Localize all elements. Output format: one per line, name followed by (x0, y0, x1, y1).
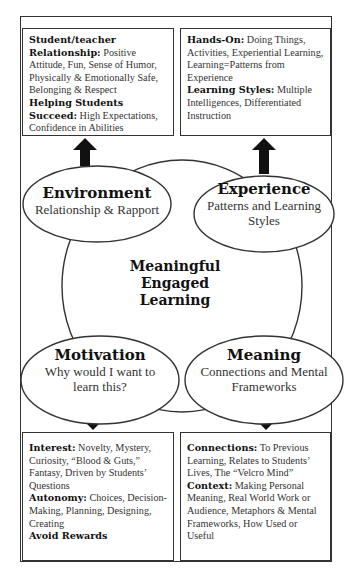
ellipse-subtitle: Relationship & Rapport (24, 202, 170, 217)
environment-label: Environment Relationship & Rapport (24, 184, 170, 217)
motivation-label: Motivation Why would I want to learn thi… (36, 346, 164, 394)
ellipse-subtitle: Patterns and Learning Styles (198, 198, 330, 228)
experience-label: Experience Patterns and Learning Styles (198, 180, 330, 228)
meaning-label: Meaning Connections and Mental Framework… (196, 346, 332, 394)
ellipse-title: Environment (24, 184, 170, 202)
center-title-line: Meaningful (100, 258, 250, 275)
center-title-line: Engaged (100, 275, 250, 292)
arrow-up-icon (252, 138, 276, 174)
arrow-up-icon (73, 138, 97, 166)
ellipse-subtitle: Why would I want to learn this? (36, 364, 164, 394)
ellipse-title: Meaning (196, 346, 332, 364)
ellipse-subtitle: Connections and Mental Frameworks (196, 364, 332, 394)
ellipse-title: Experience (198, 180, 330, 198)
center-title-line: Learning (100, 292, 250, 309)
ellipse-title: Motivation (36, 346, 164, 364)
center-title: Meaningful Engaged Learning (100, 258, 250, 309)
